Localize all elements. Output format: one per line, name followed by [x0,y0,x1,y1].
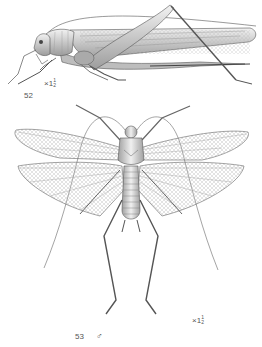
magnification-fraction: 12 [201,315,204,325]
insect-dorsal-figure-53 [15,105,249,314]
magnification-label-52: ×112 [44,78,56,88]
male-symbol-icon: ♂ [96,332,103,341]
illustration-plate: ×112 52 ×112 53 ♂ [0,0,262,347]
fraction-denominator: 2 [53,83,56,88]
figure-number-52: 52 [24,92,33,100]
figure-number-53: 53 [75,333,84,341]
magnification-fraction: 12 [53,78,56,88]
insect-lateral-figure-52 [8,5,256,84]
fraction-denominator: 2 [201,320,204,325]
magnification-label-53: ×112 [192,315,204,325]
insect-illustrations [0,0,262,347]
